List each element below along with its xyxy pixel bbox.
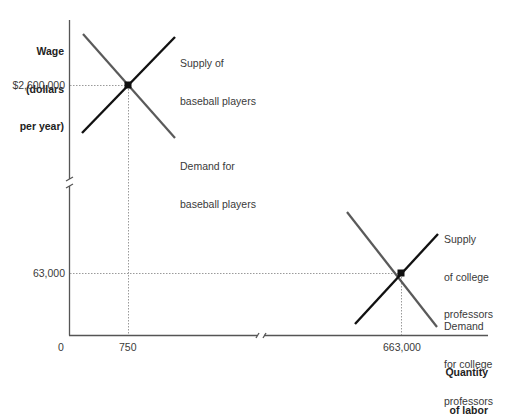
demand-professor-line xyxy=(347,212,437,327)
label-line: baseball players xyxy=(180,198,256,211)
label-line: baseball players xyxy=(180,95,256,108)
x-axis xyxy=(69,333,488,338)
x-tick-low: 750 xyxy=(119,341,137,354)
label-line: of college xyxy=(444,271,493,284)
y-axis-title-line: Wage xyxy=(10,45,64,58)
supply-professor-line xyxy=(355,234,438,324)
label-line: Demand xyxy=(444,320,493,333)
equilibrium-baseball-point xyxy=(125,82,132,89)
supply-baseball-label: Supply of baseball players xyxy=(180,32,256,120)
label-line: professors xyxy=(444,395,493,408)
demand-professor-label: Demand for college professors xyxy=(444,295,493,418)
y-tick-low: 63,000 xyxy=(0,267,65,280)
label-line: Supply xyxy=(444,233,493,246)
equilibrium-professor-point xyxy=(398,270,405,277)
label-line: Demand for xyxy=(180,160,256,173)
y-axis xyxy=(66,20,73,336)
y-tick-high: $2,600,000 xyxy=(0,79,65,92)
label-line: Supply of xyxy=(180,57,256,70)
y-axis-title-line: per year) xyxy=(10,120,64,133)
label-line: for college xyxy=(444,358,493,371)
demand-baseball-label: Demand for baseball players xyxy=(180,135,256,223)
x-tick-high: 663,000 xyxy=(383,341,421,354)
origin-label: 0 xyxy=(58,341,64,354)
